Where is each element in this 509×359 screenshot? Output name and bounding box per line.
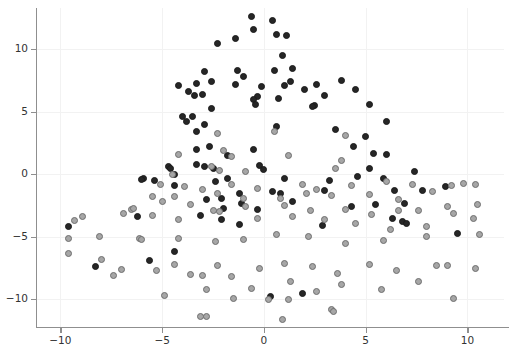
scatter-point [395, 207, 402, 214]
scatter-point [159, 198, 166, 205]
gridline-horizontal [36, 49, 504, 50]
scatter-point [175, 82, 182, 89]
scatter-point [281, 260, 288, 267]
scatter-point [366, 261, 373, 268]
scatter-point [161, 292, 168, 299]
x-tick-label: −10 [40, 334, 80, 346]
scatter-point [252, 101, 259, 108]
scatter-point [403, 220, 410, 227]
x-axis-spine [36, 327, 509, 328]
scatter-point [153, 267, 160, 274]
scatter-point [240, 236, 247, 243]
scatter-point [92, 263, 99, 270]
scatter-point [175, 235, 182, 242]
gridline-vertical [162, 8, 163, 328]
scatter-point [342, 132, 349, 139]
scatter-point [415, 278, 422, 285]
scatter-point [305, 233, 312, 240]
scatter-point [203, 286, 210, 293]
gridline-horizontal [36, 112, 504, 113]
scatter-point [130, 205, 137, 212]
scatter-point [285, 152, 292, 159]
scatter-point [169, 171, 176, 178]
scatter-point [96, 233, 103, 240]
scatter-point [134, 213, 141, 220]
scatter-point [234, 67, 241, 74]
scatter-point [279, 316, 286, 323]
scatter-point [301, 86, 308, 93]
scatter-point [366, 191, 373, 198]
scatter-point [214, 262, 221, 269]
scatter-point [326, 177, 333, 184]
scatter-point [248, 13, 255, 20]
scatter-point [199, 91, 206, 98]
y-tick-mark [31, 174, 36, 175]
scatter-point [187, 201, 194, 208]
scatter-point [171, 193, 178, 200]
scatter-point [389, 215, 396, 222]
scatter-point [220, 147, 227, 154]
scatter-point [187, 271, 194, 278]
scatter-point [171, 261, 178, 268]
y-tick-label: 5 [0, 105, 28, 117]
scatter-point [201, 68, 208, 75]
scatter-point [476, 231, 483, 238]
scatter-point [279, 52, 286, 59]
scatter-point [332, 165, 339, 172]
scatter-point [313, 81, 320, 88]
scatter-point [214, 130, 221, 137]
y-axis-spine [36, 8, 37, 328]
gridline-horizontal [36, 174, 504, 175]
gridline-horizontal [36, 237, 504, 238]
scatter-point [348, 182, 355, 189]
scatter-point [183, 118, 190, 125]
scatter-point [214, 190, 221, 197]
scatter-point [71, 217, 78, 224]
scatter-point [362, 133, 369, 140]
x-tick-label: −5 [142, 334, 182, 346]
scatter-point [393, 267, 400, 274]
scatter-point [448, 182, 455, 189]
x-tick-mark [60, 328, 61, 333]
scatter-point [250, 26, 257, 33]
scatter-point [366, 165, 373, 172]
scatter-point [313, 288, 320, 295]
scatter-point [254, 215, 261, 222]
scatter-point [208, 105, 215, 112]
scatter-point [275, 95, 282, 102]
scatter-point [383, 118, 390, 125]
scatter-point [338, 281, 345, 288]
scatter-point [199, 186, 206, 193]
scatter-point [118, 266, 125, 273]
scatter-point [383, 178, 390, 185]
scatter-point [230, 295, 237, 302]
scatter-point [203, 196, 210, 203]
scatter-point [260, 166, 267, 173]
scatter-point [348, 203, 355, 210]
scatter-point [208, 163, 215, 170]
scatter-point [321, 187, 328, 194]
scatter-point [444, 203, 451, 210]
scatter-point [236, 221, 243, 228]
y-tick-mark [31, 299, 36, 300]
scatter-point [380, 237, 387, 244]
scatter-point [454, 230, 461, 237]
scatter-point [181, 183, 188, 190]
scatter-point [472, 265, 479, 272]
scatter-point [299, 181, 306, 188]
scatter-point [149, 212, 156, 219]
scatter-point [401, 200, 408, 207]
scatter-point [228, 181, 235, 188]
scatter-point [193, 128, 200, 135]
scatter-point [203, 313, 210, 320]
scatter-point [319, 222, 326, 229]
scatter-point [287, 278, 294, 285]
gridline-vertical [60, 8, 61, 328]
scatter-point [197, 212, 204, 219]
scatter-point [248, 285, 255, 292]
scatter-point [450, 295, 457, 302]
scatter-point [228, 153, 235, 160]
scatter-point [352, 86, 359, 93]
scatter-point [212, 238, 219, 245]
y-tick-mark [31, 237, 36, 238]
